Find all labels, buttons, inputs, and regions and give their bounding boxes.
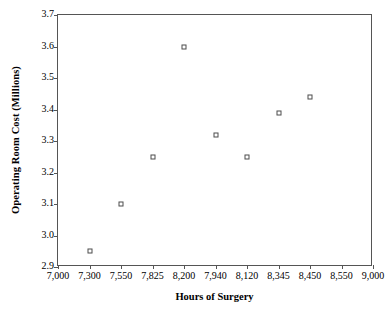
data-point xyxy=(87,249,92,254)
y-tick-label: 3.4 xyxy=(42,103,55,114)
y-tick-mark xyxy=(54,173,58,174)
y-tick-mark xyxy=(54,110,58,111)
x-tick-label: 7,000 xyxy=(47,270,70,281)
x-tick-label: 8,200 xyxy=(173,270,196,281)
y-tick-label: 3.0 xyxy=(42,229,55,240)
x-tick-label: 8,450 xyxy=(299,270,322,281)
x-tick-label: 7,940 xyxy=(204,270,227,281)
plot-area: 3.73.63.53.43.33.23.13.02.9 7,0007,3007,… xyxy=(57,14,372,266)
x-tick-mark xyxy=(58,265,59,269)
data-point xyxy=(182,44,187,49)
x-tick-label: 7,300 xyxy=(78,270,101,281)
x-tick-label: 8,120 xyxy=(236,270,259,281)
x-tick-mark xyxy=(90,265,91,269)
x-tick-label: 7,825 xyxy=(141,270,164,281)
x-tick-mark xyxy=(153,265,154,269)
y-axis-title: Operating Room Cost (Millions) xyxy=(8,14,24,266)
x-tick-mark xyxy=(216,265,217,269)
data-point xyxy=(150,154,155,159)
data-point xyxy=(245,154,250,159)
y-tick-mark xyxy=(54,15,58,16)
y-tick-label: 3.5 xyxy=(42,71,55,82)
y-tick-mark xyxy=(54,47,58,48)
y-tick-label: 3.2 xyxy=(42,166,55,177)
y-tick-mark xyxy=(54,204,58,205)
x-tick-label: 8,550 xyxy=(330,270,353,281)
x-tick-label: 7,550 xyxy=(110,270,133,281)
data-point xyxy=(276,110,281,115)
x-tick-label: 8,345 xyxy=(267,270,290,281)
data-point xyxy=(308,94,313,99)
x-tick-mark xyxy=(310,265,311,269)
x-tick-mark xyxy=(342,265,343,269)
x-axis-title: Hours of Surgery xyxy=(57,291,372,302)
y-tick-label: 3.7 xyxy=(42,8,55,19)
y-tick-label: 3.6 xyxy=(42,40,55,51)
x-tick-mark xyxy=(279,265,280,269)
data-point xyxy=(213,132,218,137)
x-tick-mark xyxy=(121,265,122,269)
y-tick-mark xyxy=(54,78,58,79)
x-tick-mark xyxy=(373,265,374,269)
data-point xyxy=(119,202,124,207)
y-tick-mark xyxy=(54,236,58,237)
x-tick-mark xyxy=(247,265,248,269)
y-tick-mark xyxy=(54,141,58,142)
x-tick-label: 9,000 xyxy=(362,270,385,281)
y-tick-label: 3.3 xyxy=(42,134,55,145)
y-tick-label: 3.1 xyxy=(42,197,55,208)
scatter-chart-figure: Operating Room Cost (Millions) 3.73.63.5… xyxy=(0,0,390,317)
x-tick-mark xyxy=(184,265,185,269)
